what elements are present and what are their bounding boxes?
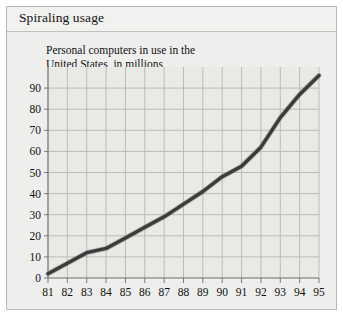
y-axis-tick-label: 70 (30, 124, 42, 136)
y-axis-tick-label: 50 (30, 167, 42, 179)
x-axis-tick-labels: 818283848586878889909192939495 (42, 286, 325, 298)
y-axis-tick-label: 40 (30, 188, 42, 200)
x-axis-tick-label: 83 (81, 286, 93, 298)
x-axis-tick-label: 81 (42, 286, 54, 298)
x-axis-tick-label: 92 (255, 286, 267, 298)
line-chart-svg: 0102030405060708090 81828384858687888990… (7, 7, 338, 311)
x-axis-tick-label: 93 (275, 286, 287, 298)
x-axis-tick-label: 82 (62, 286, 74, 298)
plot-area: 0102030405060708090 81828384858687888990… (7, 7, 338, 311)
y-axis-tick-label: 20 (30, 230, 42, 242)
x-axis-tick-label: 86 (139, 286, 151, 298)
y-axis-tick-label: 30 (30, 209, 42, 221)
y-axis-tick-label: 90 (30, 82, 42, 94)
x-axis-tick-label: 94 (294, 286, 306, 298)
x-axis-tick-label: 85 (120, 286, 132, 298)
y-axis-tick-label: 10 (30, 251, 42, 263)
y-axis-tick-label: 60 (30, 145, 42, 157)
x-axis-tick-label: 84 (100, 286, 112, 298)
x-axis-tick-label: 89 (197, 286, 209, 298)
y-axis-tick-label: 80 (30, 103, 42, 115)
chart-panel: Spiraling usage Personal computers in us… (6, 6, 337, 310)
y-axis-tick-labels: 0102030405060708090 (30, 82, 42, 284)
y-axis-tick-label: 0 (35, 272, 41, 284)
x-axis-tick-label: 87 (158, 286, 170, 298)
x-axis-tick-label: 91 (236, 286, 248, 298)
x-axis-tick-label: 95 (313, 286, 325, 298)
x-axis-tick-label: 88 (178, 286, 190, 298)
x-axis-tick-label: 90 (216, 286, 228, 298)
